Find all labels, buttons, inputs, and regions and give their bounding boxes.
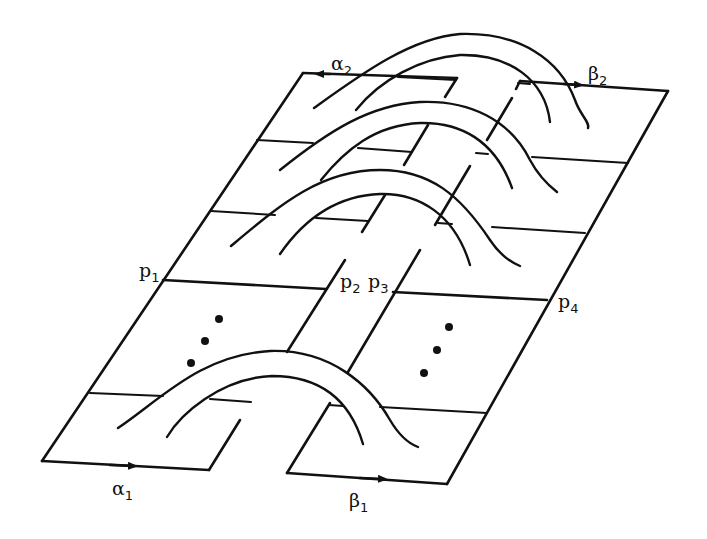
band-4-outer <box>118 351 418 447</box>
rung-right-2b <box>492 227 585 233</box>
rung-bottom-left <box>90 393 163 396</box>
band-3-inner <box>280 194 470 265</box>
band-3-outer <box>231 170 520 266</box>
rung-left-2 <box>211 211 275 215</box>
strip-right-edge-lower <box>348 250 420 372</box>
label-p1: p1 <box>139 261 159 284</box>
right-outer-edge <box>447 91 668 484</box>
strip-left-edge-bottom <box>209 420 240 470</box>
rung-right-1b <box>532 157 628 163</box>
ellipsis-right <box>420 323 453 377</box>
arrow-beta1-icon <box>360 478 384 479</box>
left-outer-edge <box>42 73 303 461</box>
label-beta2: β2 <box>588 64 607 87</box>
strip-left-edge-mid2 <box>404 125 428 165</box>
strip-left-edge-lower <box>287 260 345 352</box>
rung-bottom-mid <box>210 399 251 402</box>
rung-mid-2 <box>316 218 368 221</box>
label-beta1: β1 <box>349 491 368 514</box>
rung-p1-p2 <box>163 280 326 289</box>
label-p4: p4 <box>558 292 578 315</box>
band-4-inner <box>167 376 363 444</box>
ellipsis-left <box>187 315 223 367</box>
strip-left-edge-mid1 <box>362 195 385 232</box>
band-1-inner <box>356 55 550 122</box>
rung-bottom-right-a <box>329 405 343 406</box>
rungs <box>90 77 628 413</box>
arrow-alpha1-icon <box>110 465 134 466</box>
rung-right-1a <box>476 153 488 154</box>
label-alpha1: α1 <box>112 479 133 502</box>
rung-p3-p4 <box>393 292 547 300</box>
strip-right-edge-bottom <box>287 403 330 473</box>
band-2-inner <box>321 123 512 188</box>
rung-mid-1 <box>358 148 412 152</box>
band-1-outer <box>314 34 588 128</box>
label-p2: p2 <box>340 272 360 295</box>
rung-bottom-right-b <box>380 407 487 413</box>
rung-top-right <box>518 83 530 84</box>
label-alpha2: α2 <box>331 54 352 77</box>
label-p3: p3 <box>368 272 388 295</box>
rung-left-1 <box>257 140 313 143</box>
bands <box>118 34 588 447</box>
